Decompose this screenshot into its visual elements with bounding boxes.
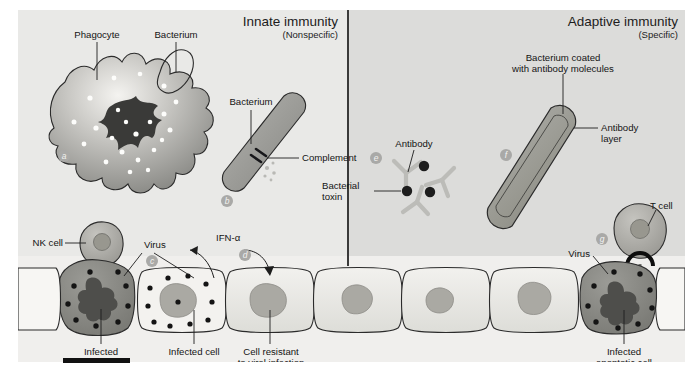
antibody-toxin-complex	[394, 161, 454, 214]
label-antibody-layer-1: Antibody	[601, 122, 638, 133]
label-infected-apoptotic-right-1: Infected	[584, 346, 664, 357]
leaking-contents	[263, 162, 275, 182]
resistant-cell-nucleus	[250, 284, 286, 318]
label-bacterial-toxin-1: Bacterial	[322, 180, 359, 191]
bacterium-complement-group	[222, 93, 305, 192]
immunity-figure: Innate immunity (Nonspecific) Adaptive i…	[0, 0, 685, 374]
antibody-coated-bacterium-group	[487, 105, 575, 228]
badge-e: e	[370, 152, 382, 164]
nk-cell-group	[80, 222, 123, 266]
label-antibody-layer-2: layer	[601, 133, 622, 144]
label-ifn-alpha: IFN-α	[216, 232, 240, 243]
label-bacterium-engulfed: Bacterium	[141, 29, 211, 40]
adaptive-title: Adaptive immunity	[478, 14, 678, 29]
label-cell-resistant-2: to viral infection	[228, 357, 314, 362]
toxin-dot	[425, 187, 435, 197]
label-nk-cell: NK cell	[18, 237, 63, 248]
scale-bar	[63, 358, 130, 363]
infected-apoptotic-cell-right	[580, 262, 657, 334]
epithelial-cell-4	[402, 268, 491, 333]
adaptive-title-block: Adaptive immunity (Specific)	[478, 14, 678, 40]
phagocyte-group	[49, 50, 213, 193]
label-complement: Complement	[302, 152, 356, 163]
badge-f: f	[500, 149, 512, 161]
label-bacterial-toxin-2: toxin	[322, 191, 342, 202]
label-bacterium-coated-2: with antibody molecules	[496, 63, 630, 74]
epithelial-cell-3	[314, 268, 403, 333]
epithelial-cell-partial-right	[656, 268, 685, 330]
badge-c: c	[146, 255, 158, 267]
innate-title: Innate immunity	[168, 14, 338, 29]
figure-plate: Innate immunity (Nonspecific) Adaptive i…	[18, 10, 685, 362]
epithelial-cell-infected	[138, 268, 227, 333]
label-antibody: Antibody	[380, 138, 448, 149]
t-cell-nucleus	[631, 220, 650, 239]
epithelial-cell-5	[490, 268, 579, 333]
antibody-molecule-top	[394, 161, 421, 190]
adaptive-subtitle: (Specific)	[478, 29, 678, 40]
toxin-dot	[419, 161, 429, 171]
badge-a: a	[58, 150, 70, 162]
label-infected-apoptotic-left-1: Infected	[61, 346, 141, 357]
label-phagocyte: Phagocyte	[57, 29, 137, 40]
label-infected-apoptotic-right-2: apoptotic cell	[584, 357, 664, 362]
toxin-dot	[402, 186, 412, 196]
epithelial-cell-partial-left	[18, 268, 61, 330]
label-bacterium-complement: Bacterium	[216, 96, 286, 107]
badge-b: b	[221, 195, 233, 207]
label-virus-right: Virus	[542, 248, 590, 259]
ifn-arrowhead-out	[190, 246, 198, 255]
leader-virus-left	[124, 253, 142, 276]
label-virus-left: Virus	[144, 239, 166, 250]
badge-d: d	[239, 249, 251, 261]
nk-cell-nucleus	[94, 234, 111, 251]
badge-g: g	[596, 233, 608, 245]
label-bacterium-coated-1: Bacterium coated	[496, 52, 630, 63]
label-infected-cell: Infected cell	[154, 346, 234, 357]
infected-apoptotic-cell-left	[58, 260, 134, 336]
antibody-layer-outline	[487, 105, 575, 228]
label-cell-resistant-1: Cell resistant	[228, 346, 314, 357]
label-t-cell: T cell	[650, 200, 673, 211]
